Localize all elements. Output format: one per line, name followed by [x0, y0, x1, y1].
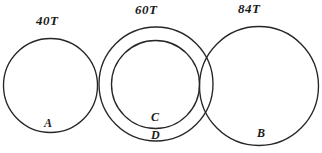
gear-tooth-label-84t: 84T [238, 2, 260, 15]
gear-point-label-a: A [44, 117, 53, 129]
gear-point-label-c: C [151, 111, 160, 123]
gear-point-label-b: B [257, 127, 266, 139]
gear-point-label-d: D [151, 129, 160, 141]
gear-diagram: 40T 60T 84T A C D B Fig. 11 [0, 0, 322, 153]
gear-tooth-label-60t: 60T [135, 3, 157, 16]
figure-caption-clipped: Fig. 11 [4, 151, 29, 153]
gear-tooth-label-40t: 40T [36, 14, 58, 27]
